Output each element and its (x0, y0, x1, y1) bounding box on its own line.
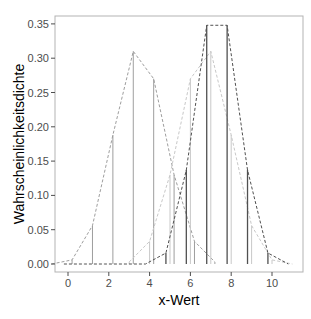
y-tick-label: 0.25 (28, 87, 49, 99)
x-tick-label: 4 (147, 277, 153, 289)
y-tick-label: 0.35 (28, 18, 49, 30)
x-tick-label: 6 (187, 277, 193, 289)
x-tick-label: 0 (65, 277, 71, 289)
x-tick-label: 2 (106, 277, 112, 289)
x-axis: 0246810 (65, 272, 278, 289)
y-tick-label: 0.20 (28, 121, 49, 133)
y-tick-label: 0.15 (28, 155, 49, 167)
y-tick-label: 0.00 (28, 258, 49, 270)
y-axis: 0.000.050.100.150.200.250.300.35 (28, 18, 55, 270)
y-axis-title: Wahrscheinlichkeitsdichte (11, 64, 27, 225)
x-axis-title: x-Wert (159, 292, 200, 308)
y-tick-label: 0.30 (28, 52, 49, 64)
y-tick-label: 0.05 (28, 224, 49, 236)
x-tick-label: 10 (266, 277, 278, 289)
chart: 0246810 0.000.050.100.150.200.250.300.35… (0, 0, 311, 319)
y-tick-label: 0.10 (28, 189, 49, 201)
x-tick-label: 8 (228, 277, 234, 289)
